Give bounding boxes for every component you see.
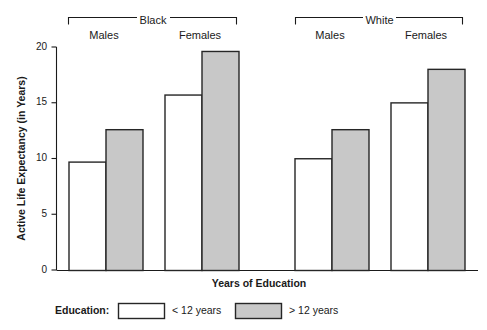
subgroup-label-black-males: Males — [89, 29, 119, 41]
legend-label-gt12: > 12 years — [289, 304, 338, 316]
subgroup-label-white-females: Females — [405, 29, 448, 41]
y-tick-label-15: 15 — [36, 96, 48, 107]
bar-white-males-gt12[interactable] — [332, 130, 369, 271]
y-axis: 20 15 10 5 0 Active Life Expectancy (in … — [15, 41, 57, 275]
chart-figure: Black Males Females White Males Females … — [0, 0, 487, 330]
bars-white-females — [391, 69, 465, 270]
subgroup-label-white-males: Males — [315, 29, 345, 41]
bar-white-females-gt12[interactable] — [428, 69, 465, 270]
bracket-white-right — [396, 18, 463, 25]
bar-black-females-gt12[interactable] — [202, 51, 239, 270]
legend-swatch-gt12[interactable] — [236, 304, 282, 319]
bracket-label-black: Black — [140, 14, 167, 26]
bar-black-females-lt12[interactable] — [165, 95, 202, 270]
bars-white-males — [295, 130, 369, 271]
bracket-black-left — [69, 18, 138, 25]
y-tick-label-20: 20 — [36, 41, 48, 52]
y-tick-label-5: 5 — [41, 208, 47, 219]
bar-white-females-lt12[interactable] — [391, 103, 428, 271]
y-tick-label-10: 10 — [36, 152, 48, 163]
subgroup-label-black-females: Females — [179, 29, 222, 41]
bar-black-males-lt12[interactable] — [69, 162, 106, 270]
y-axis-title: Active Life Expectancy (in Years) — [15, 76, 27, 240]
legend-label-lt12: < 12 years — [172, 304, 221, 316]
bracket-white-left — [296, 18, 364, 25]
bars-black-males — [69, 130, 143, 271]
bracket-group-white: White Males Females — [296, 14, 463, 41]
bars-black-females — [165, 51, 239, 270]
y-tick-label-0: 0 — [41, 264, 47, 275]
bracket-label-white: White — [365, 14, 393, 26]
bracket-black-right — [170, 18, 237, 25]
legend-swatch-lt12[interactable] — [119, 304, 165, 319]
bar-chart-svg: Black Males Females White Males Females … — [0, 0, 487, 330]
bar-white-males-lt12[interactable] — [295, 159, 332, 271]
bracket-group-black: Black Males Females — [69, 14, 237, 41]
legend: Education: < 12 years > 12 years — [55, 304, 338, 319]
bar-black-males-gt12[interactable] — [106, 130, 143, 271]
x-axis-title: Years of Education — [212, 277, 307, 289]
legend-title: Education: — [55, 304, 109, 316]
